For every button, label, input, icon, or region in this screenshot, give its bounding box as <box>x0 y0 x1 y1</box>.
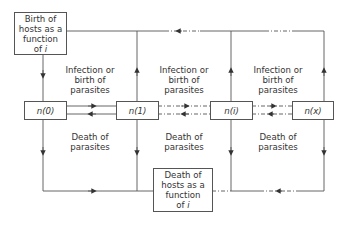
birth-hosts-var: i <box>45 44 47 54</box>
infection-line1: Infection or <box>50 65 130 75</box>
infection-line2: birth of <box>50 75 130 85</box>
death-line1: Death of <box>50 132 130 142</box>
infection-line1: Infection or <box>238 65 318 75</box>
death-line2: parasites <box>144 142 224 152</box>
infection-line3: parasites <box>144 85 224 95</box>
infection-line3: parasites <box>238 85 318 95</box>
infection-label-1: Infection or birth of parasites <box>50 65 130 95</box>
death-hosts-of: of <box>176 200 187 210</box>
death-label-1: Death of parasites <box>50 132 130 152</box>
state-nx: n(x) <box>292 101 334 120</box>
birth-hosts-line1: Birth of <box>25 14 57 24</box>
death-line2: parasites <box>50 142 130 152</box>
death-line1: Death of <box>144 132 224 142</box>
death-label-3: Death of parasites <box>238 132 318 152</box>
birth-of-hosts-box: Birth of hosts as a function of i <box>14 12 67 55</box>
death-hosts-line3: function <box>165 190 200 200</box>
infection-line2: birth of <box>144 75 224 85</box>
birth-hosts-line2: hosts as a <box>19 24 63 34</box>
infection-label-3: Infection or birth of parasites <box>238 65 318 95</box>
death-hosts-line1: Death of <box>164 170 201 180</box>
birth-hosts-line4: of i <box>34 44 47 54</box>
death-of-hosts-box: Death of hosts as a function of i <box>153 168 213 212</box>
death-hosts-line4: of i <box>176 200 189 210</box>
birth-hosts-of: of <box>34 44 45 54</box>
infection-line2: birth of <box>238 75 318 85</box>
death-line2: parasites <box>238 142 318 152</box>
state-n0: n(0) <box>24 101 67 120</box>
infection-label-2: Infection or birth of parasites <box>144 65 224 95</box>
death-line1: Death of <box>238 132 318 142</box>
infection-line3: parasites <box>50 85 130 95</box>
infection-line1: Infection or <box>144 65 224 75</box>
birth-hosts-line3: function <box>23 34 58 44</box>
death-hosts-line2: hosts as a <box>161 180 205 190</box>
state-ni: n(i) <box>210 101 253 120</box>
state-n1: n(1) <box>116 101 159 120</box>
death-label-2: Death of parasites <box>144 132 224 152</box>
death-hosts-var: i <box>187 200 189 210</box>
